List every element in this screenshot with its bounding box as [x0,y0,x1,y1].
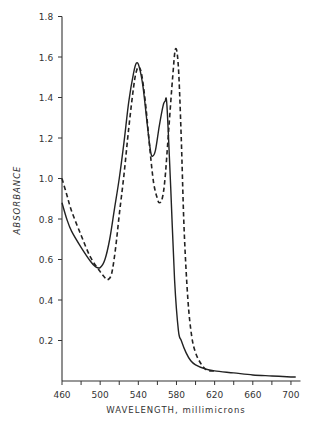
series-layer [62,49,296,377]
y-tick-label: 0.4 [39,296,54,306]
x-tick-label: 660 [244,390,261,400]
series-dashed-line [62,49,215,371]
y-tick-label: 0.2 [39,336,53,346]
y-tick-label: 1.6 [39,53,54,63]
y-tick-label: 1.0 [39,174,54,184]
x-tick-label: 700 [282,390,299,400]
x-tick-label: 540 [130,390,147,400]
x-tick-label: 580 [168,390,185,400]
series-solid-line [62,63,296,377]
x-tick-label: 500 [92,390,109,400]
x-tick-label: 460 [53,390,70,400]
y-tick-label: 1.2 [39,134,53,144]
y-tick-label: 1.4 [39,93,54,103]
absorbance-spectrum-chart: 0.20.40.60.81.01.21.41.61.8 460500540580… [0,0,321,425]
y-tick-label: 0.8 [39,215,54,225]
x-tick-label: 620 [206,390,223,400]
y-axis: 0.20.40.60.81.01.21.41.61.8 [39,12,62,381]
x-axis: 460500540580620660700 [53,381,300,400]
y-tick-label: 1.8 [39,12,54,22]
y-tick-label: 0.6 [39,255,54,265]
x-axis-title: WAVELENGTH, millimicrons [106,405,246,415]
y-axis-title: ABSORBANCE [12,166,22,236]
